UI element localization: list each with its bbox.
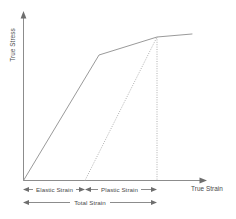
elastic-strain-left-arrowhead xyxy=(23,187,29,192)
total-strain-label: Total Strain xyxy=(74,199,106,206)
plastic-strain-right-arrowhead xyxy=(151,187,157,192)
elastic-unloading-line xyxy=(85,37,157,181)
y-axis-arrowhead xyxy=(21,11,27,19)
true-stress-strain-curve xyxy=(24,34,193,181)
total-strain-left-arrowhead xyxy=(23,200,29,205)
total-strain-right-arrowhead xyxy=(151,200,157,205)
y-axis-title: True Stress xyxy=(9,28,16,61)
x-axis-arrowhead xyxy=(200,178,208,184)
stress-strain-curve-group xyxy=(24,34,193,181)
elastic-strain-label: Elastic Strain xyxy=(36,186,73,193)
plastic-strain-left-arrowhead xyxy=(85,187,91,192)
construction-lines-group xyxy=(85,37,157,181)
x-axis-title: True Strain xyxy=(191,185,223,192)
plastic-strain-label: Plastic Strain xyxy=(101,186,138,193)
elastic-strain-annotation: Elastic Strain xyxy=(23,186,85,194)
plastic-strain-annotation: Plastic Strain xyxy=(85,186,157,194)
elastic-strain-right-arrowhead xyxy=(79,187,85,192)
stress-strain-figure: Elastic Strain Plastic Strain Total Stra… xyxy=(0,0,236,219)
total-strain-annotation: Total Strain xyxy=(23,199,157,207)
chart-axes xyxy=(21,11,207,183)
stress-strain-chart-canvas: Elastic Strain Plastic Strain Total Stra… xyxy=(0,0,236,219)
